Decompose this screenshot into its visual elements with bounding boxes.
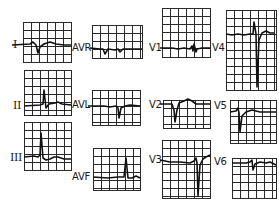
lead-label-iii: III bbox=[10, 153, 22, 163]
lead-iii-panel bbox=[24, 122, 72, 171]
lead-label-avl: AVL bbox=[72, 100, 90, 110]
ecg-trace bbox=[93, 158, 140, 178]
lead-v2-panel bbox=[160, 99, 211, 129]
lead-label-ii: II bbox=[13, 101, 21, 111]
ecg-grid bbox=[162, 140, 211, 199]
lead-label-avf: AVF bbox=[72, 172, 90, 182]
lead-avl-panel bbox=[88, 90, 141, 126]
ecg-trace bbox=[230, 108, 276, 132]
lead-v6-panel bbox=[232, 158, 277, 199]
lead-label-v5: V5 bbox=[214, 101, 227, 111]
ecg-grid bbox=[230, 100, 277, 144]
ecg-grid bbox=[24, 70, 72, 116]
lead-label-i: I bbox=[13, 40, 17, 50]
lead-label-v4: V4 bbox=[212, 43, 225, 53]
ecg-trace bbox=[12, 42, 71, 53]
ecg-grid bbox=[93, 148, 141, 191]
ecg-figure bbox=[0, 0, 279, 203]
ecg-trace bbox=[232, 160, 276, 170]
ecg-grid bbox=[162, 8, 211, 58]
lead-ii-panel bbox=[24, 70, 72, 116]
lead-label-v1: V1 bbox=[149, 43, 162, 53]
lead-i-panel bbox=[12, 22, 72, 63]
ecg-grid bbox=[92, 25, 143, 59]
lead-panels bbox=[12, 8, 277, 199]
lead-avf-panel bbox=[93, 148, 141, 191]
ecg-trace bbox=[160, 99, 210, 122]
lead-v1-panel bbox=[160, 8, 211, 58]
lead-label-v6: V6 bbox=[214, 157, 227, 167]
lead-label-v3: V3 bbox=[149, 155, 162, 165]
lead-avr-panel bbox=[90, 25, 143, 59]
ecg-trace bbox=[24, 90, 71, 108]
lead-v5-panel bbox=[230, 100, 277, 144]
lead-label-v2: V2 bbox=[149, 100, 162, 110]
lead-v4-panel bbox=[226, 10, 277, 91]
ecg-grid bbox=[92, 90, 141, 126]
lead-label-avr: AVR bbox=[72, 43, 91, 53]
ecg-grid bbox=[226, 10, 277, 91]
lead-v3-panel bbox=[160, 140, 211, 199]
ecg-grid bbox=[24, 122, 72, 171]
